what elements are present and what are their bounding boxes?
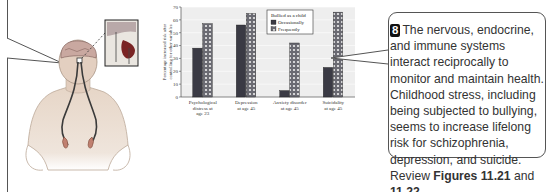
callout-body: The nervous, endocrine, and immune syste…	[390, 23, 544, 183]
svg-text:distress at: distress at	[193, 106, 213, 111]
svg-text:Bullied as a child: Bullied as a child	[271, 13, 306, 18]
svg-text:Depression: Depression	[235, 100, 258, 105]
step-number-badge: 8	[390, 24, 400, 37]
svg-text:Occasionally: Occasionally	[278, 20, 305, 25]
svg-text:at age 45: at age 45	[281, 106, 300, 111]
svg-text:60: 60	[173, 18, 179, 23]
callout-conjunction: and	[511, 169, 535, 183]
svg-text:20: 20	[173, 69, 179, 74]
svg-text:Suicidality: Suicidality	[322, 100, 344, 105]
svg-text:0: 0	[176, 95, 179, 100]
figure-reference-11-22: 11.22	[390, 185, 420, 192]
svg-text:Psychological: Psychological	[189, 100, 218, 105]
callout-text: 8The nervous, endocrine, and immune syst…	[390, 22, 546, 192]
svg-text:at age 45: at age 45	[237, 106, 256, 111]
svg-text:40: 40	[173, 43, 179, 48]
bullying-risk-bar-chart: 010203040506070Percentage increased risk…	[140, 0, 360, 130]
svg-text:Percentage increased risk afte: Percentage increased risk aftercontrolli…	[162, 23, 173, 80]
svg-text:30: 30	[173, 56, 179, 61]
svg-text:50: 50	[173, 31, 179, 36]
figure-reference-11-21: Figures 11.21	[433, 169, 510, 183]
svg-text:70: 70	[173, 5, 179, 10]
svg-text:Anxiety disorder: Anxiety disorder	[273, 100, 307, 105]
svg-text:at age 45: at age 45	[324, 106, 343, 111]
callout-pointer	[330, 40, 390, 90]
svg-text:Frequently: Frequently	[278, 27, 300, 32]
svg-text:10: 10	[173, 82, 179, 87]
svg-text:age 23: age 23	[196, 111, 210, 116]
anatomical-figure	[8, 0, 148, 190]
